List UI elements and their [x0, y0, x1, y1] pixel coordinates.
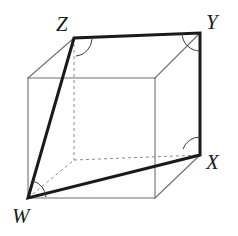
- vertex-label-x: X: [206, 152, 219, 173]
- cube-diagram-svg: [0, 0, 238, 236]
- angle-mark-x: [183, 137, 200, 149]
- vertex-label-w: W: [12, 206, 30, 227]
- angle-mark-z: [76, 39, 92, 56]
- cube-edges-group: [28, 33, 200, 198]
- vertex-label-z: Z: [56, 14, 68, 35]
- geometry-figure: Z Y X W: [0, 0, 238, 236]
- vertex-label-y: Y: [206, 12, 218, 33]
- cube-edge-top-right-depth: [155, 33, 200, 78]
- cross-section-polygon-wzyx: [28, 33, 200, 198]
- cross-section-group: [28, 33, 200, 198]
- hidden-edges-group: [28, 38, 200, 198]
